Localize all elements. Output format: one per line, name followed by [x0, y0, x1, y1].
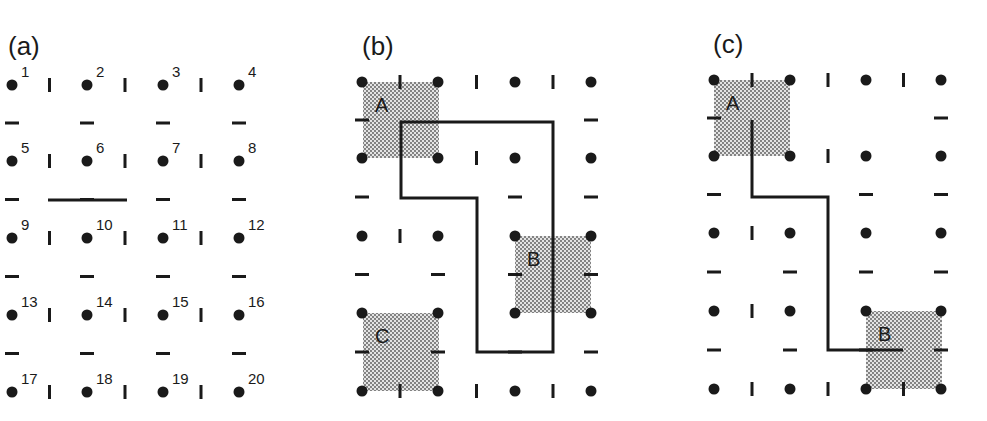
grid-node [785, 151, 796, 162]
grid-node [861, 228, 872, 239]
wall-segment-vertical [399, 75, 402, 89]
wall-segment-vertical [827, 382, 830, 396]
wall-segment-vertical [48, 308, 51, 322]
wall-segment-horizontal [934, 193, 948, 196]
wall-segment-vertical [200, 78, 203, 92]
grid-node [357, 231, 368, 242]
wall-segment-vertical [751, 304, 754, 318]
node-number: 2 [96, 63, 104, 80]
grid-node [82, 387, 93, 398]
wall-segment-vertical [751, 226, 754, 240]
wall-segment-horizontal [80, 122, 94, 125]
wall-segment-vertical [902, 382, 905, 396]
wall-segment-vertical [48, 231, 51, 245]
wall-segment-horizontal [156, 122, 170, 125]
wall-segment-horizontal [934, 349, 948, 352]
wall-segment-horizontal [707, 349, 721, 352]
grid-node [785, 384, 796, 395]
wall-segment-vertical [475, 151, 478, 165]
wall-segment-horizontal [707, 271, 721, 274]
panel-a-label: (a) [8, 31, 40, 61]
grid-node [510, 231, 521, 242]
wall-segment-horizontal [934, 117, 948, 120]
grid-node [82, 156, 93, 167]
node-number: 13 [21, 293, 38, 310]
grid-node [234, 156, 245, 167]
wall-segment-vertical [200, 231, 203, 245]
grid-node [7, 80, 18, 91]
grid-node [586, 231, 597, 242]
grid-node [357, 386, 368, 397]
grid-node [158, 310, 169, 321]
grid-node [709, 228, 720, 239]
grid-node [234, 80, 245, 91]
wall-segment-horizontal [355, 196, 369, 199]
node-number: 9 [21, 216, 29, 233]
grid-node [586, 386, 597, 397]
wall-segment-vertical [200, 308, 203, 322]
grid-node [82, 80, 93, 91]
node-number: 4 [248, 63, 256, 80]
wall-segment-vertical [48, 154, 51, 168]
wall-segment-vertical [124, 231, 127, 245]
grid-node [936, 384, 947, 395]
grid-node [7, 233, 18, 244]
wall-segment-horizontal [355, 119, 369, 122]
grid-node [433, 231, 444, 242]
grid-node [861, 151, 872, 162]
wall-segment-vertical [200, 385, 203, 399]
grid-node [936, 75, 947, 86]
wall-segment-horizontal [232, 122, 246, 125]
grid-node [861, 306, 872, 317]
grid-node [861, 384, 872, 395]
panel-a: (a) 1234567891011121314151617181920 [5, 31, 265, 399]
node-number: 11 [172, 216, 188, 233]
wall-segment-horizontal [431, 351, 445, 354]
wall-segment-horizontal [156, 275, 170, 278]
wall-segment-vertical [399, 384, 402, 398]
node-number: 12 [248, 216, 265, 233]
wall-segment-vertical [200, 154, 203, 168]
grid-node [709, 384, 720, 395]
grid-node [158, 387, 169, 398]
wall-segment-horizontal [232, 352, 246, 355]
wall-segment-vertical [751, 73, 754, 87]
node-number: 5 [21, 139, 29, 156]
wall-segment-horizontal [584, 351, 598, 354]
wall-segment-vertical [827, 149, 830, 163]
node-number: 3 [172, 63, 180, 80]
wall-segment-horizontal [584, 273, 598, 276]
wall-segment-horizontal [232, 198, 246, 201]
wall-segment-horizontal [156, 352, 170, 355]
wall-segment-vertical [48, 78, 51, 92]
grid-node [936, 228, 947, 239]
node-number: 8 [248, 139, 256, 156]
grid-node [586, 308, 597, 319]
grid-node [709, 75, 720, 86]
wall-segment-horizontal [5, 122, 19, 125]
wall-segment-horizontal [707, 117, 721, 120]
panel-c: (c) AB [707, 29, 948, 396]
wall-segment-horizontal [934, 271, 948, 274]
wall-segment-vertical [827, 73, 830, 87]
grid-node [234, 310, 245, 321]
grid-node [82, 310, 93, 321]
grid-node [433, 386, 444, 397]
grid-node [433, 77, 444, 88]
diagram-canvas: (a) 1234567891011121314151617181920 (b) … [0, 0, 987, 421]
wall-segment-horizontal [5, 198, 19, 201]
wall-segment-vertical [552, 75, 555, 89]
region-label-c: C [375, 325, 389, 347]
wall-segment-horizontal [859, 271, 873, 274]
region-label-a: A [375, 94, 389, 116]
grid-node [785, 306, 796, 317]
wall-segment-horizontal [355, 273, 369, 276]
panel-b: (b) ABC [355, 31, 598, 398]
wall-segment-horizontal [5, 275, 19, 278]
grid-node [861, 75, 872, 86]
node-number: 14 [96, 293, 113, 310]
grid-node [510, 308, 521, 319]
wall-segment-vertical [124, 154, 127, 168]
node-number: 20 [248, 370, 265, 387]
grid-node [936, 151, 947, 162]
